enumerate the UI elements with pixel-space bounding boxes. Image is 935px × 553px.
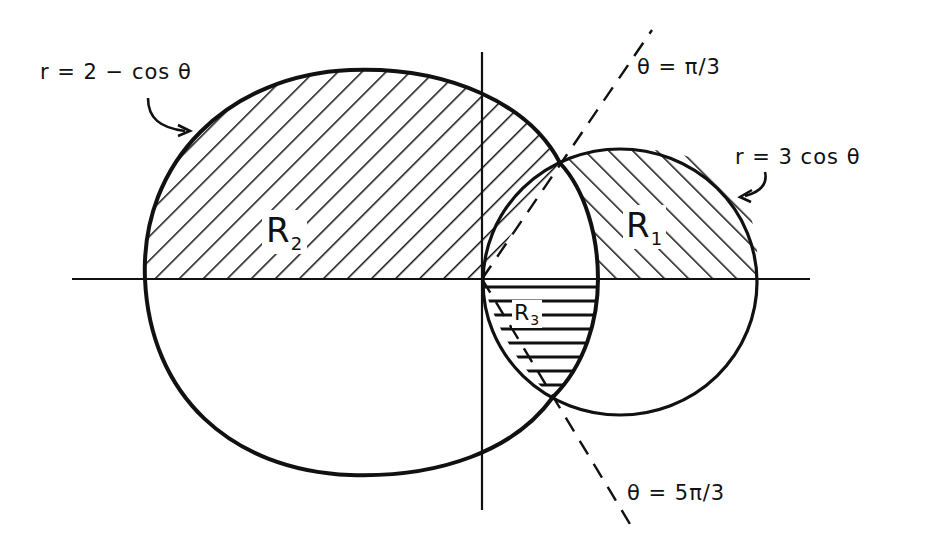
- region-label-r2: R2: [262, 210, 307, 254]
- ray-lower-label: θ = 5π/3: [627, 481, 725, 505]
- circle-equation-label: r = 3 cos θ: [735, 145, 860, 169]
- region-label-r3: R3: [512, 300, 542, 328]
- limacon-equation-label: r = 2 − cos θ: [40, 60, 192, 84]
- ray-upper-label: θ = π/3: [637, 55, 721, 79]
- region-label-r1: R1: [623, 205, 666, 249]
